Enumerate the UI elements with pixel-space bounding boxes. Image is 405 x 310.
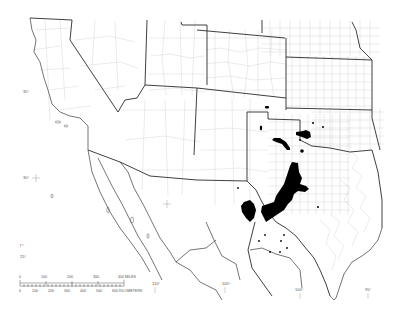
occurrence-dot: [312, 122, 314, 124]
occurrence-dot: [237, 187, 239, 189]
occurrence-dot: [258, 240, 260, 242]
scale-miles-300: 300: [93, 275, 99, 279]
occurrence-dot: [280, 240, 282, 242]
longitude-label-105: 105°: [222, 281, 230, 286]
scale-km-100: 100: [32, 289, 38, 293]
scale-miles-400: 400 MILES: [118, 275, 136, 279]
latitude-label-25: 25°: [20, 254, 26, 259]
scale-km-400: 400: [80, 289, 86, 293]
scale-km-600: 600 KILOMETERS: [112, 289, 142, 293]
scale-km-200: 200: [48, 289, 54, 293]
scale-km-500: 500: [96, 289, 102, 293]
border-range-spot: [265, 106, 269, 108]
scale-km-300: 300: [64, 289, 70, 293]
small-marker-label: Γ°: [20, 243, 24, 248]
occurrence-dot: [269, 251, 271, 253]
occurrence-dot: [279, 251, 281, 253]
latitude-label-35: 35°: [23, 89, 29, 94]
scale-km-0: 0: [19, 289, 21, 293]
latitude-label-30: 30°: [23, 175, 29, 180]
occurrence-dot: [300, 149, 304, 153]
longitude-label-110: 110°: [152, 281, 160, 286]
map-background: [0, 0, 405, 310]
occurrence-dot: [264, 234, 266, 236]
scale-miles-100: 100: [41, 275, 47, 279]
scale-miles-200: 200: [67, 275, 73, 279]
scale-miles-0: 0: [19, 275, 21, 279]
new-mexico-range-spot: [260, 126, 262, 131]
occurrence-dot: [299, 139, 301, 141]
longitude-label-95: 95°: [365, 287, 371, 292]
occurrence-dot: [317, 206, 319, 208]
occurrence-dot: [322, 126, 324, 128]
longitude-label-100: 100°: [295, 287, 303, 292]
occurrence-dot: [286, 247, 288, 249]
occurrence-dot: [283, 234, 285, 236]
range-map: [0, 0, 405, 310]
